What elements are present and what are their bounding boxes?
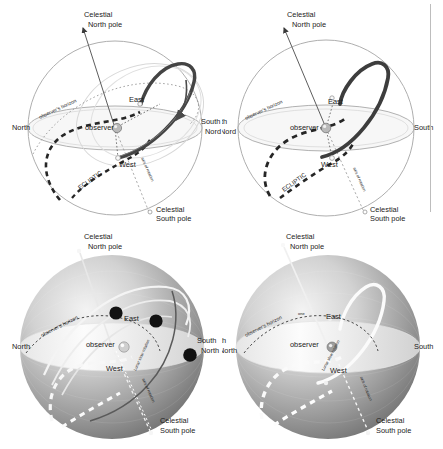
label-cardinal-south: South — [414, 342, 433, 351]
label-celestial-south-pole-line1: Celestial — [160, 416, 189, 425]
observer-highlight — [114, 125, 117, 128]
label-cardinal-south-clipped: th — [222, 336, 226, 345]
label-east: East — [326, 312, 341, 321]
label-celestial-north-pole-line1: Celestial — [84, 10, 113, 19]
label-cardinal-south: South — [201, 117, 220, 126]
label-observer: observer — [290, 340, 319, 349]
moon-marker — [149, 314, 162, 327]
label-celestial-south-pole-line1: Celestial — [156, 205, 185, 214]
panel-top-right-drawing: Celestial North pole Celestial South pol… — [222, 0, 443, 225]
label-celestial-north-pole-line2: North pole — [292, 20, 326, 29]
south-pole-node — [149, 431, 153, 435]
label-celestial-south-pole-line2: South pole — [160, 426, 195, 435]
observer-highlight — [323, 125, 326, 128]
label-celestial-north-pole-line2: North pole — [88, 20, 122, 29]
label-celestial-south-pole-line1: Celestial — [376, 416, 405, 425]
panel-top-left: Celestial North pole Celestial South pol… — [0, 0, 222, 225]
label-cardinal-nord: Nord — [222, 127, 236, 136]
panel-bottom-right-drawing: Celestial North pole Celestial South pol… — [222, 225, 443, 449]
panel-bottom-left-drawing: Celestial North pole Celestial South pol… — [0, 225, 222, 449]
label-ecliptic: ECLIPTIC — [76, 168, 103, 190]
north-pole-node — [281, 243, 285, 247]
label-west: West — [330, 366, 347, 375]
south-pole-node — [363, 210, 367, 214]
label-cardinal-nord: Nord — [205, 127, 221, 136]
label-cardinal-north-right: North — [201, 346, 219, 355]
label-celestial-south-pole-line2: South pole — [156, 214, 191, 223]
celestial-sphere-figure: Celestial North pole Celestial South pol… — [0, 0, 443, 449]
north-pole-node — [77, 249, 81, 253]
label-celestial-south-pole-line2: South pole — [376, 426, 411, 435]
label-celestial-north-pole-line1: Celestial — [287, 10, 316, 19]
label-axis-of-rotation: axis of rotation — [140, 156, 155, 182]
label-celestial-north-pole-line1: Celestial — [84, 232, 113, 241]
observer-marker — [112, 123, 121, 132]
observer-marker — [321, 123, 331, 133]
panel-bottom-right: Celestial North pole Celestial South pol… — [222, 225, 443, 449]
label-celestial-north-pole-line2: North pole — [88, 242, 122, 251]
moon-marker — [183, 348, 197, 362]
moon-marker — [109, 306, 122, 319]
label-cardinal-north: North — [12, 342, 30, 351]
label-west: West — [106, 364, 123, 373]
label-cardinal-north: North — [222, 346, 237, 355]
label-east: East — [129, 95, 144, 104]
observer-marker — [119, 342, 129, 352]
label-celestial-north-pole-line1: Celestial — [286, 232, 315, 241]
label-cardinal-north-clipped: th — [222, 117, 227, 126]
label-east: East — [328, 97, 343, 106]
panel-top-left-drawing: Celestial North pole Celestial South pol… — [0, 0, 222, 225]
label-west: West — [321, 160, 338, 169]
west-node — [324, 381, 328, 385]
label-celestial-south-pole-line2: South pole — [370, 214, 405, 223]
label-celestial-north-pole-line2: North pole — [290, 242, 324, 251]
panel-top-right: Celestial North pole Celestial South pol… — [222, 0, 443, 225]
label-cardinal-south: South — [197, 336, 216, 345]
label-west: West — [119, 160, 136, 169]
label-cardinal-north: North — [12, 123, 30, 132]
label-one: one — [298, 311, 305, 316]
observer-highlight — [121, 344, 125, 348]
label-axis-of-rotation: axis of rotation — [352, 166, 367, 192]
label-observer: observer — [290, 123, 319, 132]
panel-bottom-left: Celestial North pole Celestial South pol… — [0, 225, 222, 449]
label-east: East — [124, 314, 139, 323]
south-pole-node — [148, 210, 152, 214]
label-observer: observer — [86, 340, 115, 349]
right-margin-divider — [430, 4, 431, 212]
label-celestial-south-pole-line1: Celestial — [370, 205, 399, 214]
label-observer: observer — [85, 123, 114, 132]
